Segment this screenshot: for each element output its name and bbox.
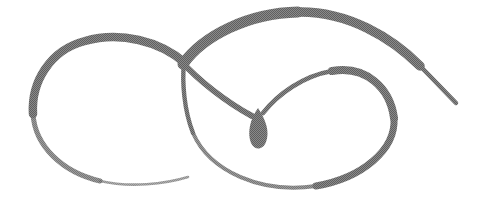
- flourish-drawing: [0, 0, 488, 210]
- artwork-canvas: [0, 0, 488, 210]
